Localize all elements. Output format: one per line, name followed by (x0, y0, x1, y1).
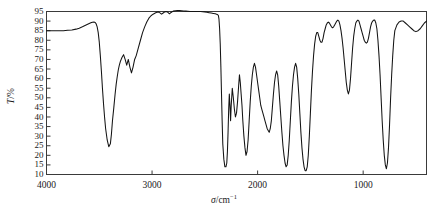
y-tick-label: 70 (35, 54, 45, 64)
x-tick-label: 3000 (143, 180, 162, 190)
y-tick-label: 20 (35, 150, 45, 160)
spectrum-plot-svg: 101520253035404550556065707580859095 400… (0, 0, 441, 218)
y-tick-label: 75 (35, 44, 45, 54)
y-axis-tick-labels: 101520253035404550556065707580859095 (35, 6, 45, 179)
y-tick-label: 10 (35, 169, 45, 179)
y-tick-label: 90 (35, 16, 45, 26)
y-tick-label: 15 (35, 159, 45, 169)
figure-background (0, 0, 441, 218)
x-axis-title-unit: /cm (216, 195, 231, 205)
x-tick-label: 1000 (354, 180, 373, 190)
y-tick-label: 95 (35, 6, 45, 16)
y-axis-title-unit: /% (6, 88, 16, 99)
y-tick-label: 45 (35, 102, 45, 112)
y-axis-title: T/% (6, 88, 16, 104)
y-tick-label: 55 (35, 83, 45, 93)
svg-text:T/%: T/% (6, 88, 16, 104)
y-tick-label: 85 (35, 25, 45, 35)
y-tick-label: 50 (35, 92, 45, 102)
x-tick-label: 2000 (248, 180, 267, 190)
y-tick-label: 80 (35, 35, 45, 45)
y-tick-label: 25 (35, 140, 45, 150)
y-tick-label: 60 (35, 73, 45, 83)
x-axis-title-exponent: −1 (230, 193, 237, 200)
y-tick-label: 35 (35, 121, 45, 131)
x-tick-label: 4000 (37, 180, 56, 190)
ir-spectrum-figure: 101520253035404550556065707580859095 400… (0, 0, 441, 218)
y-tick-label: 40 (35, 112, 45, 122)
y-tick-label: 65 (35, 64, 45, 74)
y-tick-label: 30 (35, 131, 45, 141)
